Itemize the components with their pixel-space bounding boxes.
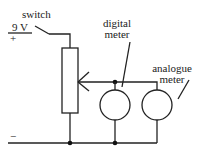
wiper-wire	[78, 82, 157, 90]
digital-meter-pointer	[122, 42, 130, 87]
switch-blade	[35, 26, 49, 34]
junction-dot	[68, 141, 73, 146]
circuit-diagram: 9 V + switch − digital meter analogue me…	[0, 0, 205, 157]
minus-label: −	[10, 130, 16, 142]
analogue-meter-symbol	[142, 90, 172, 120]
wiper-arrow-upper	[78, 72, 89, 82]
junction-dot	[113, 141, 118, 146]
switch-to-resistor-wire	[49, 34, 70, 48]
switch-label: switch	[22, 8, 51, 20]
potentiometer	[62, 48, 78, 113]
wiper-arrow-lower	[78, 82, 89, 91]
digital-meter-label-line2: meter	[104, 28, 129, 40]
digital-meter-symbol	[100, 90, 130, 120]
plus-label: +	[10, 32, 16, 44]
analogue-meter-label-line2: meter	[159, 73, 184, 85]
